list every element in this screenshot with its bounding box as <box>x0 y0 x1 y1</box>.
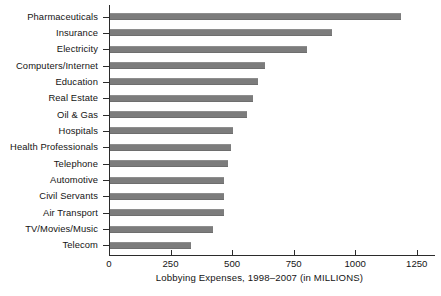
category-label: Air Transport <box>0 208 98 218</box>
y-axis-tick <box>103 229 109 230</box>
bar-telephone <box>110 160 228 167</box>
x-axis-tick-label: 750 <box>274 258 314 269</box>
x-axis-tick-label: 500 <box>212 258 252 269</box>
plot-area <box>110 5 435 255</box>
bar-insurance <box>110 29 332 36</box>
category-axis-labels: PharmaceuticalsInsuranceElectricityCompu… <box>0 5 104 255</box>
y-axis-line <box>109 5 110 256</box>
bar-civil-servants <box>110 193 224 200</box>
bar-telecom <box>110 242 191 249</box>
category-label: Health Professionals <box>0 142 98 152</box>
bar-oil-gas <box>110 111 247 118</box>
x-axis-tick-label: 0 <box>89 258 129 269</box>
bar-hospitals <box>110 127 233 134</box>
bar-electricity <box>110 46 307 53</box>
x-axis-line <box>109 255 435 256</box>
bar-education <box>110 78 258 85</box>
y-axis-tick <box>103 17 109 18</box>
bar-air-transport <box>110 209 224 216</box>
bar-pharmaceuticals <box>110 13 401 20</box>
category-label: Electricity <box>0 44 98 54</box>
y-axis-tick <box>103 49 109 50</box>
category-label: Pharmaceuticals <box>0 12 98 22</box>
category-label: Computers/Internet <box>0 61 98 71</box>
x-axis-title-text: Lobbying Expenses, 1998–2007 (in MILLION… <box>78 272 363 283</box>
y-axis-tick <box>103 131 109 132</box>
category-label: Real Estate <box>0 93 98 103</box>
bar-automotive <box>110 177 224 184</box>
x-axis-tick <box>417 250 418 256</box>
y-axis-tick <box>103 82 109 83</box>
y-axis-tick <box>103 66 109 67</box>
y-axis-tick <box>103 33 109 34</box>
y-axis-tick <box>103 98 109 99</box>
category-label: Insurance <box>0 28 98 38</box>
category-label: Education <box>0 77 98 87</box>
y-axis-tick <box>103 147 109 148</box>
category-label: Oil & Gas <box>0 110 98 120</box>
x-axis-title: Lobbying Expenses, 1998–2007 (in MILLION… <box>0 272 441 283</box>
bar-real-estate <box>110 95 253 102</box>
x-axis-tick <box>171 250 172 256</box>
y-axis-tick <box>103 245 109 246</box>
x-axis-tick-label: 250 <box>151 258 191 269</box>
x-axis-tick-label: 1250 <box>397 258 437 269</box>
lobbying-expenses-bar-chart: PharmaceuticalsInsuranceElectricityCompu… <box>0 0 441 296</box>
bar-computers-internet <box>110 62 265 69</box>
y-axis-tick <box>103 196 109 197</box>
category-label: TV/Movies/Music <box>0 224 98 234</box>
category-label: Automotive <box>0 175 98 185</box>
category-label: Telephone <box>0 159 98 169</box>
bar-health-professionals <box>110 144 231 151</box>
category-label: Civil Servants <box>0 191 98 201</box>
x-axis-tick <box>109 250 110 256</box>
bar-tv-movies-music <box>110 226 213 233</box>
y-axis-tick <box>103 115 109 116</box>
category-label: Hospitals <box>0 126 98 136</box>
y-axis-tick <box>103 180 109 181</box>
x-axis-tick <box>232 250 233 256</box>
category-label: Telecom <box>0 240 98 250</box>
x-axis-tick <box>355 250 356 256</box>
y-axis-tick <box>103 164 109 165</box>
y-axis-tick <box>103 213 109 214</box>
x-axis-tick-label: 1000 <box>335 258 375 269</box>
x-axis-tick <box>294 250 295 256</box>
